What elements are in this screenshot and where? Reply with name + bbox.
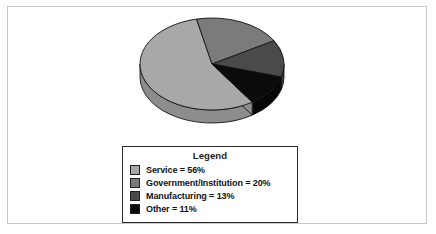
pie-chart [132,8,296,128]
legend-swatch [130,204,140,214]
chart-figure: Legend Service = 56%Government/Instituti… [0,0,436,234]
legend: Legend Service = 56%Government/Instituti… [122,146,298,223]
legend-item-label: Manufacturing = 13% [146,191,234,201]
pie-top-faces [140,18,284,110]
legend-item: Other = 11% [130,202,297,215]
legend-title: Legend [123,150,297,161]
legend-item: Manufacturing = 13% [130,189,297,202]
pie-chart-svg [132,8,296,128]
legend-item: Service = 56% [130,163,297,176]
legend-item: Government/Institution = 20% [130,176,297,189]
legend-item-label: Government/Institution = 20% [146,178,270,188]
legend-swatch [130,165,140,175]
legend-item-label: Other = 11% [146,204,197,214]
legend-swatch [130,178,140,188]
legend-items: Service = 56%Government/Institution = 20… [123,163,297,215]
legend-item-label: Service = 56% [146,165,205,175]
legend-swatch [130,191,140,201]
